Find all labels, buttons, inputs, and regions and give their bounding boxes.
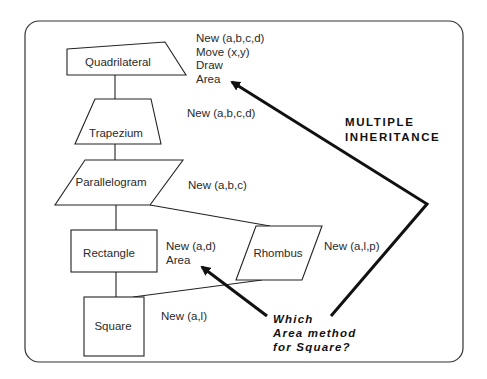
square-methods: New (a,l) bbox=[161, 310, 207, 324]
multiple-inheritance-title: MULTIPLE INHERITANCE bbox=[345, 115, 440, 145]
title-line: INHERITANCE bbox=[345, 130, 440, 145]
method-label: New (a,l) bbox=[161, 310, 207, 322]
method-label: Draw bbox=[196, 59, 264, 73]
inheritance-diagram: Quadrilateral Trapezium Parallelogram Re… bbox=[0, 0, 487, 379]
edge-square-rhombus bbox=[133, 280, 262, 297]
class-rectangle-label: Rectangle bbox=[83, 247, 135, 259]
question-line: Area method bbox=[273, 326, 357, 340]
area-method-question: Which Area method for Square? bbox=[273, 312, 357, 354]
rectangle-methods: New (a,d) Area bbox=[166, 240, 216, 267]
title-line: MULTIPLE bbox=[345, 115, 440, 130]
class-parallelogram-label: Parallelogram bbox=[76, 176, 147, 188]
class-trapezium-label: Trapezium bbox=[89, 127, 143, 139]
method-label: New (a,l,p) bbox=[324, 240, 380, 252]
rhombus-methods: New (a,l,p) bbox=[324, 240, 380, 254]
class-square-label: Square bbox=[94, 320, 131, 332]
class-rhombus-label: Rhombus bbox=[253, 247, 302, 259]
method-label: Move (x,y) bbox=[196, 46, 264, 60]
question-line: Which bbox=[273, 312, 357, 326]
method-label: New (a,b,c,d) bbox=[196, 32, 264, 46]
method-label: Area bbox=[166, 254, 216, 268]
quadrilateral-methods: New (a,b,c,d) Move (x,y) Draw Area bbox=[196, 32, 264, 86]
question-line: for Square? bbox=[273, 340, 357, 354]
method-label: Area bbox=[196, 73, 264, 87]
class-quadrilateral-label: Quadrilateral bbox=[85, 56, 151, 68]
method-label: New (a,b,c) bbox=[188, 179, 247, 191]
edge-rhombus-parallelogram bbox=[150, 205, 270, 226]
parallelogram-methods: New (a,b,c) bbox=[188, 179, 247, 193]
trapezium-methods: New (a,b,c,d) bbox=[187, 107, 255, 121]
method-label: New (a,b,c,d) bbox=[187, 107, 255, 119]
method-label: New (a,d) bbox=[166, 240, 216, 254]
